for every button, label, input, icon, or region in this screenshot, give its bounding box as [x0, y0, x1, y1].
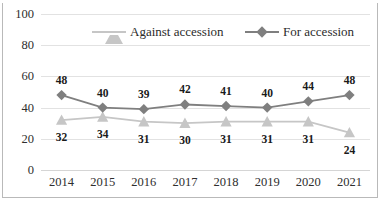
- y-tick-label: 40: [22, 102, 35, 115]
- data-label: 40: [97, 88, 109, 100]
- diamond-marker-icon: [139, 104, 149, 114]
- data-label: 30: [179, 135, 191, 147]
- chart-container: 100806040200 323431303131312448403942414…: [0, 0, 390, 208]
- data-label: 42: [179, 84, 191, 96]
- data-label: 40: [261, 88, 273, 100]
- x-axis-labels: 20142015201620172018201920202021: [41, 176, 370, 196]
- diamond-marker-icon: [180, 99, 190, 109]
- data-label: 34: [97, 129, 109, 141]
- diamond-marker-icon: [262, 102, 272, 112]
- data-label: 32: [56, 132, 68, 144]
- diamond-marker-icon: [221, 101, 231, 111]
- x-tick-label: 2020: [296, 176, 321, 189]
- x-tick-label: 2015: [90, 176, 115, 189]
- data-label: 48: [344, 75, 356, 87]
- x-tick-label: 2017: [172, 176, 197, 189]
- series-layer: [41, 14, 370, 170]
- diamond-marker-icon: [56, 90, 66, 100]
- data-label: 31: [303, 134, 315, 146]
- frame-border-bottom: [2, 197, 378, 198]
- x-tick-label: 2016: [131, 176, 156, 189]
- data-label: 31: [138, 134, 150, 146]
- data-label: 41: [220, 86, 232, 98]
- plot-area: 32343130313131244840394241404448: [41, 14, 370, 170]
- data-label: 44: [303, 81, 315, 93]
- y-tick-label: 100: [15, 8, 34, 21]
- y-axis-labels: 100806040200: [0, 0, 38, 208]
- data-label: 48: [56, 75, 68, 87]
- x-tick-label: 2019: [255, 176, 280, 189]
- y-tick-label: 20: [22, 133, 35, 146]
- y-tick-label: 80: [22, 39, 35, 52]
- y-tick-label: 0: [28, 164, 34, 177]
- x-tick-label: 2018: [214, 176, 239, 189]
- axis-baseline: [41, 170, 370, 171]
- data-label: 24: [344, 145, 356, 157]
- x-tick-label: 2021: [337, 176, 362, 189]
- y-tick-label: 60: [22, 70, 35, 83]
- diamond-marker-icon: [97, 102, 107, 112]
- diamond-marker-icon: [303, 96, 313, 106]
- frame-border-right: [377, 2, 378, 198]
- data-label: 39: [138, 89, 150, 101]
- top-edge-clip: [2, 0, 378, 3]
- data-label: 31: [261, 134, 273, 146]
- x-tick-label: 2014: [49, 176, 74, 189]
- diamond-marker-icon: [344, 90, 354, 100]
- data-label: 31: [220, 134, 232, 146]
